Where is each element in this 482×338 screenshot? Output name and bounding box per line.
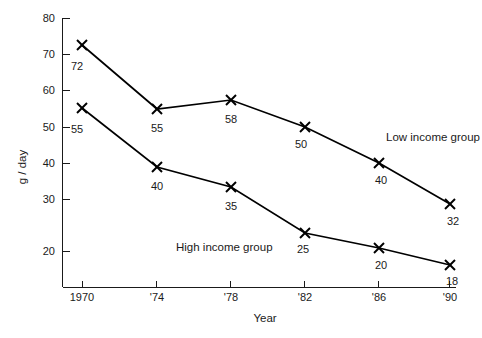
data-label: 50 (295, 138, 307, 150)
series-low-income-line (82, 45, 450, 204)
y-tick-marks (63, 19, 71, 252)
marker-point (300, 122, 310, 132)
data-label: 35 (225, 200, 237, 212)
data-label: 55 (151, 122, 163, 134)
data-label: 20 (375, 259, 387, 271)
marker-point (77, 40, 87, 50)
data-label: 25 (297, 243, 309, 255)
marker-point (152, 162, 162, 172)
data-label: 18 (446, 275, 458, 287)
line-chart: 80 70 60 50 40 30 20 g / day 1970 '74 '7… (0, 0, 482, 338)
marker-point (226, 182, 236, 192)
x-tick-label-82: '82 (298, 291, 312, 303)
y-tick-label-80: 80 (43, 12, 55, 24)
series-label-high-income: High income group (176, 241, 273, 253)
data-label: 40 (375, 174, 387, 186)
data-label: 72 (71, 60, 83, 72)
series-low-income-group: 72 55 58 50 40 32 Low income group (71, 40, 480, 227)
y-tick-label-40: 40 (43, 157, 55, 169)
y-tick-label-60: 60 (43, 84, 55, 96)
series-label-low-income: Low income group (386, 131, 480, 143)
x-axis-title: Year (253, 312, 276, 324)
y-tick-label-50: 50 (43, 121, 55, 133)
y-tick-label-20: 20 (43, 245, 55, 257)
y-tick-label-30: 30 (43, 193, 55, 205)
x-tick-label-78: '78 (224, 291, 238, 303)
y-tick-labels: 80 70 60 50 40 30 20 (43, 12, 55, 257)
marker-point (374, 158, 384, 168)
marker-point (445, 199, 455, 209)
data-label: 55 (71, 123, 83, 135)
x-tick-label-74: '74 (150, 291, 164, 303)
data-label: 58 (225, 113, 237, 125)
x-tick-labels: 1970 '74 '78 '82 '86 '90 (70, 291, 457, 303)
y-axis-title: g / day (16, 149, 28, 184)
x-tick-label-1970: 1970 (70, 291, 94, 303)
series-high-income-data-labels: 55 40 35 25 20 18 (71, 123, 458, 287)
x-tick-marks (83, 281, 450, 288)
data-label: 32 (447, 215, 459, 227)
marker-point (77, 103, 87, 113)
series-low-income-markers (77, 40, 455, 209)
x-tick-label-90: '90 (443, 291, 457, 303)
y-tick-label-70: 70 (43, 48, 55, 60)
data-label: 40 (151, 180, 163, 192)
chart-container: 80 70 60 50 40 30 20 g / day 1970 '74 '7… (0, 0, 482, 338)
x-tick-label-86: '86 (372, 291, 386, 303)
